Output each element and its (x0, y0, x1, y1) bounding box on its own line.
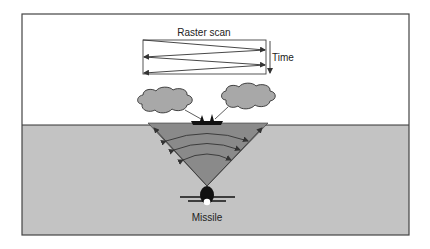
missile-label: Missile (192, 212, 223, 223)
cloud-left-icon (138, 87, 193, 113)
raster-scan-diagram: Raster scan Time (0, 0, 430, 249)
time-label: Time (272, 52, 294, 63)
raster-scan-title: Raster scan (177, 27, 230, 38)
missile-nose-dot (204, 199, 211, 206)
ship-hull (191, 121, 223, 125)
cloud-right-icon (222, 83, 276, 109)
